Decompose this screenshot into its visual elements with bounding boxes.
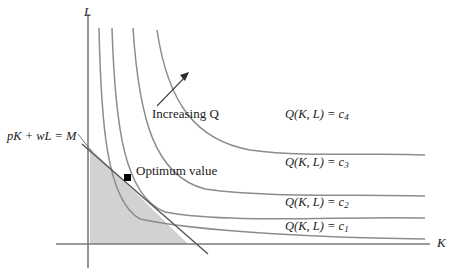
l-axis-label: L — [84, 5, 91, 18]
isoquant-label-c1-text: Q(K, L) = c — [285, 219, 344, 233]
isoquant-diagram: L K pK + wL = M Increasing Q Optimum val… — [0, 0, 454, 271]
k-axis-label: K — [437, 236, 446, 249]
isoquant-label-c1: Q(K, L) = c1 — [285, 220, 349, 234]
increasing-q-arrow-head — [180, 72, 189, 81]
isoquant-label-c3-text: Q(K, L) = c — [285, 155, 344, 169]
constraint-label: pK + wL = M — [7, 130, 76, 143]
isoquant-label-c2: Q(K, L) = c2 — [285, 196, 349, 210]
isoquant-label-c2-sub: 2 — [344, 200, 349, 210]
isoquant-label-c2-text: Q(K, L) = c — [285, 195, 344, 209]
constraint-leader-line — [78, 134, 92, 152]
isoquant-label-c4-sub: 4 — [344, 112, 349, 122]
optimum-value-label: Optimum value — [136, 164, 217, 177]
isoquant-curve-c2 — [112, 28, 425, 219]
isoquant-label-c1-sub: 1 — [344, 224, 349, 234]
isoquant-label-c4-text: Q(K, L) = c — [285, 107, 344, 121]
isoquant-label-c4: Q(K, L) = c4 — [285, 108, 349, 122]
increasing-q-label: Increasing Q — [152, 107, 219, 120]
isoquant-label-c3-sub: 3 — [344, 160, 349, 170]
isoquant-label-c3: Q(K, L) = c3 — [285, 156, 349, 170]
isoquant-curve-c4 — [157, 30, 425, 155]
optimum-point-marker — [124, 174, 131, 181]
increasing-q-arrow-shaft — [157, 76, 186, 106]
